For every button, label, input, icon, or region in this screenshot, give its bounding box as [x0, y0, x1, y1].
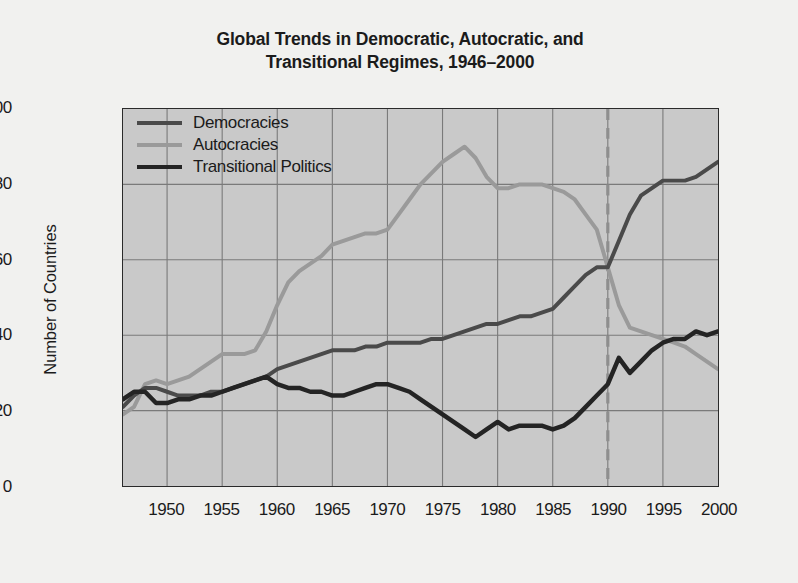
x-tick-label-2000: 2000: [679, 500, 759, 520]
y-tick-label-20: 20: [0, 401, 12, 421]
y-tick-label-0: 0: [0, 477, 12, 497]
legend-label: Autocracies: [193, 135, 278, 155]
legend-label: Democracies: [193, 113, 288, 133]
chart-figure: Global Trends in Democratic, Autocratic,…: [0, 0, 798, 583]
legend-swatch-icon: [137, 143, 182, 147]
chart-legend: DemocraciesAutocraciesTransitional Polit…: [137, 112, 387, 178]
legend-swatch-icon: [137, 121, 182, 126]
series-line-transitional-politics: [123, 331, 718, 437]
y-tick-label-40: 40: [0, 325, 12, 345]
legend-swatch-icon: [137, 165, 182, 170]
legend-item-transitional-politics[interactable]: Transitional Politics: [137, 156, 387, 178]
y-tick-label-60: 60: [0, 250, 12, 270]
y-tick-label-100: 100: [0, 98, 12, 118]
legend-label: Transitional Politics: [193, 157, 331, 177]
y-tick-label-80: 80: [0, 174, 12, 194]
legend-item-autocracies[interactable]: Autocracies: [137, 134, 387, 156]
legend-item-democracies[interactable]: Democracies: [137, 112, 387, 134]
